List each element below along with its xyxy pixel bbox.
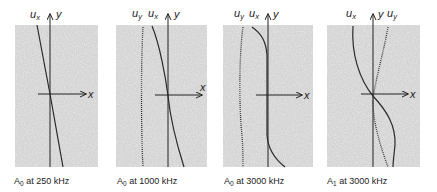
uy-label: uy: [234, 7, 245, 21]
panel-a0-3000khz: uy ux y x A0 at 3000 kHz: [223, 7, 313, 187]
panel-caption: A1 at 3000 kHz: [327, 176, 388, 187]
x-label: x: [409, 88, 416, 100]
y-label: y: [377, 8, 385, 20]
panel-a1-3000khz: ux y uy x A1 at 3000 kHz: [327, 7, 420, 187]
mode-shape-figure: ux y x A0 at 250 kHz uy ux y x A0 at 100…: [0, 0, 437, 192]
y-label: y: [272, 8, 280, 20]
ux-label: ux: [249, 7, 259, 21]
panel-a0-1000khz: uy ux y x A0 at 1000 kHz: [116, 7, 207, 187]
panel-caption: A0 at 250 kHz: [14, 176, 70, 187]
x-label: x: [303, 89, 310, 101]
plate-texture: [15, 25, 98, 167]
x-label: x: [199, 81, 206, 93]
uy-label: uy: [132, 7, 143, 21]
plate-texture: [116, 25, 207, 167]
x-label: x: [87, 88, 94, 100]
panel-a0-250khz: ux y x A0 at 250 kHz: [14, 8, 98, 187]
y-label: y: [173, 8, 181, 20]
panel-caption: A0 at 1000 kHz: [117, 176, 178, 187]
uy-label: uy: [387, 7, 398, 21]
panel-caption: A0 at 3000 kHz: [224, 176, 285, 187]
ux-label: ux: [346, 7, 356, 21]
ux-label: ux: [148, 7, 158, 21]
ux-label: ux: [30, 8, 40, 22]
y-label: y: [55, 8, 63, 20]
